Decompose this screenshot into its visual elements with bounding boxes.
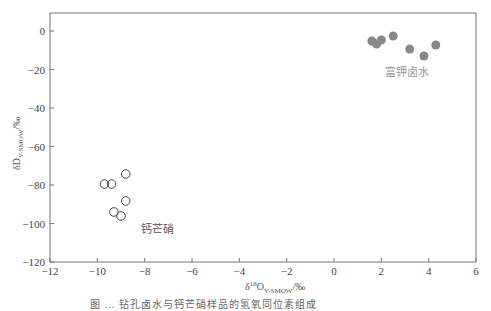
y-tick-label: −100 bbox=[22, 218, 45, 230]
y-tick-label: −120 bbox=[22, 256, 45, 268]
y-tick-label: 0 bbox=[40, 25, 46, 37]
annotation-brine: 富钾卤水 bbox=[385, 65, 429, 78]
x-tick-label: −10 bbox=[89, 265, 107, 277]
glauberite-point bbox=[121, 197, 130, 206]
x-tick-label: −8 bbox=[139, 265, 151, 277]
y-tick-label: −60 bbox=[28, 141, 46, 153]
x-axis-ticks: −12−10−8−6−4−20246 bbox=[41, 258, 479, 277]
annotation-glauberite: 钙芒硝 bbox=[141, 222, 174, 235]
x-tick-label: −2 bbox=[281, 265, 293, 277]
x-tick-label: 0 bbox=[331, 265, 337, 277]
brine-point bbox=[431, 41, 440, 50]
glauberite-point bbox=[121, 170, 130, 179]
x-tick-label: −6 bbox=[186, 265, 198, 277]
data-points bbox=[100, 32, 440, 221]
y-axis-label: δDV-SMOW/‰ bbox=[11, 117, 25, 170]
brine-point bbox=[389, 32, 398, 41]
y-tick-label: −20 bbox=[28, 64, 46, 76]
x-tick-label: 6 bbox=[473, 265, 479, 277]
glauberite-point bbox=[117, 212, 126, 221]
figure-caption: 图 … 钻孔卤水与钙芒硝样品的氢氧同位素组成 bbox=[90, 296, 317, 311]
x-axis-label: δ18OV-SMOW/‰ bbox=[245, 280, 305, 295]
x-tick-label: 2 bbox=[379, 265, 385, 277]
y-tick-label: −40 bbox=[28, 102, 46, 114]
brine-point bbox=[405, 45, 414, 54]
x-tick-label: −4 bbox=[233, 265, 245, 277]
brine-point bbox=[419, 52, 428, 61]
y-axis-ticks: 0−20−40−60−80−100−120 bbox=[22, 25, 54, 268]
y-tick-label: −80 bbox=[28, 179, 46, 191]
brine-point bbox=[377, 36, 386, 45]
x-tick-label: 4 bbox=[426, 265, 432, 277]
